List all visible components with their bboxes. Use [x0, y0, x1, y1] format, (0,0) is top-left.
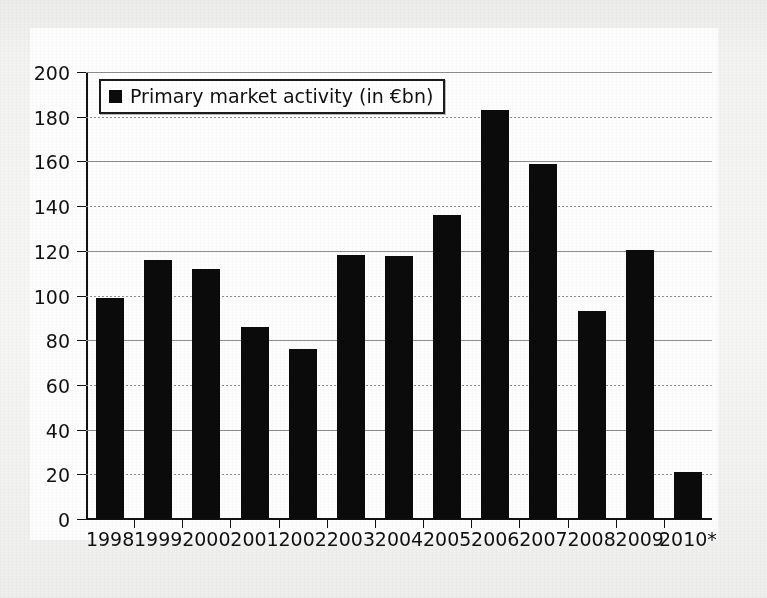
y-axis-tick: [77, 161, 86, 162]
y-axis-tick: [77, 519, 86, 520]
y-axis-tick: [77, 430, 86, 431]
x-axis-tick: [327, 519, 328, 528]
bar: [674, 472, 702, 519]
bar: [481, 110, 509, 519]
x-axis-labels: 1998199920002001200220032004200520062007…: [86, 528, 712, 558]
gridline: [86, 161, 712, 162]
bar: [144, 260, 172, 519]
y-axis-tick-label: 160: [14, 151, 70, 173]
bar: [578, 311, 606, 519]
y-axis-tick: [77, 385, 86, 386]
y-axis-tick-label: 180: [14, 107, 70, 129]
y-axis-tick: [77, 296, 86, 297]
bar: [385, 256, 413, 519]
legend-square-icon: [109, 90, 122, 103]
y-axis-tick: [77, 340, 86, 341]
x-axis-tick: [471, 519, 472, 528]
y-axis-tick-label: 0: [14, 509, 70, 531]
y-axis-tick-label: 80: [14, 330, 70, 352]
y-axis-tick-label: 200: [14, 62, 70, 84]
y-axis-tick-label: 40: [14, 420, 70, 442]
y-axis-tick-label: 120: [14, 241, 70, 263]
bar-chart: 020406080100120140160180200 199819992000…: [0, 0, 767, 598]
y-axis-tick: [77, 251, 86, 252]
x-axis-tick: [568, 519, 569, 528]
legend-label: Primary market activity (in €bn): [130, 85, 433, 107]
y-axis-tick-label: 140: [14, 196, 70, 218]
bar: [192, 269, 220, 519]
bar: [241, 327, 269, 519]
bar: [433, 215, 461, 519]
chart-legend: Primary market activity (in €bn): [99, 79, 445, 114]
x-axis-tick: [375, 519, 376, 528]
x-axis-tick: [664, 519, 665, 528]
x-axis-tick: [423, 519, 424, 528]
y-axis-tick-label: 60: [14, 375, 70, 397]
y-axis-tick: [77, 474, 86, 475]
x-axis-tick: [230, 519, 231, 528]
bar: [626, 250, 654, 519]
bar: [96, 298, 124, 519]
gridline: [86, 72, 712, 73]
x-axis-tick: [182, 519, 183, 528]
gridline: [86, 251, 712, 252]
y-axis-tick: [77, 206, 86, 207]
plot-area: [86, 72, 712, 519]
x-axis-tick: [616, 519, 617, 528]
y-axis-tick: [77, 72, 86, 73]
x-axis-tick: [134, 519, 135, 528]
bar: [289, 349, 317, 519]
x-axis-tick: [279, 519, 280, 528]
y-axis-tick-label: 20: [14, 464, 70, 486]
x-axis-tick: [519, 519, 520, 528]
bar: [337, 255, 365, 519]
y-axis-tick-label: 100: [14, 286, 70, 308]
y-axis-tick: [77, 117, 86, 118]
gridline: [86, 117, 712, 118]
x-axis-tick-label: 2010*: [658, 528, 718, 550]
bar: [529, 164, 557, 519]
gridline: [86, 206, 712, 207]
